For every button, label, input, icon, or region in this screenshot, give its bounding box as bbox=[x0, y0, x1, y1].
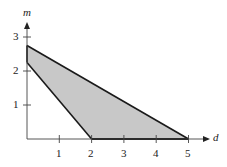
x-tick-label: 5 bbox=[185, 147, 191, 159]
y-tick-label: 1 bbox=[13, 98, 19, 110]
y-tick-label: 3 bbox=[13, 30, 19, 42]
y-axis-label: m bbox=[23, 6, 31, 18]
x-tick-label: 3 bbox=[121, 147, 127, 159]
y-tick-label: 2 bbox=[13, 64, 19, 76]
chart-canvas bbox=[0, 0, 227, 167]
x-tick-label: 4 bbox=[153, 147, 159, 159]
x-tick-label: 2 bbox=[88, 147, 94, 159]
x-axis-label: d bbox=[213, 131, 219, 143]
y-axis-arrow-icon bbox=[24, 22, 30, 29]
x-tick-label: 1 bbox=[56, 147, 62, 159]
x-axis-arrow-icon bbox=[203, 136, 210, 142]
